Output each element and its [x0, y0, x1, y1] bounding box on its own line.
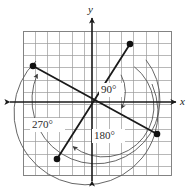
point-270-dot	[30, 63, 37, 70]
point-90-dot	[127, 41, 134, 48]
angle-label-270: 270°	[32, 119, 53, 130]
angle-diagram-figure: x y 90° 180° 270°	[0, 0, 191, 189]
x-axis-label: x	[180, 96, 185, 107]
grid-lines	[23, 31, 171, 175]
y-axis-label: y	[88, 4, 93, 15]
angle-label-180: 180°	[94, 130, 115, 141]
point-180-dot	[154, 131, 161, 138]
point-initial-dot	[54, 156, 61, 163]
diagram-canvas	[0, 0, 191, 189]
angle-label-90: 90°	[101, 84, 116, 95]
